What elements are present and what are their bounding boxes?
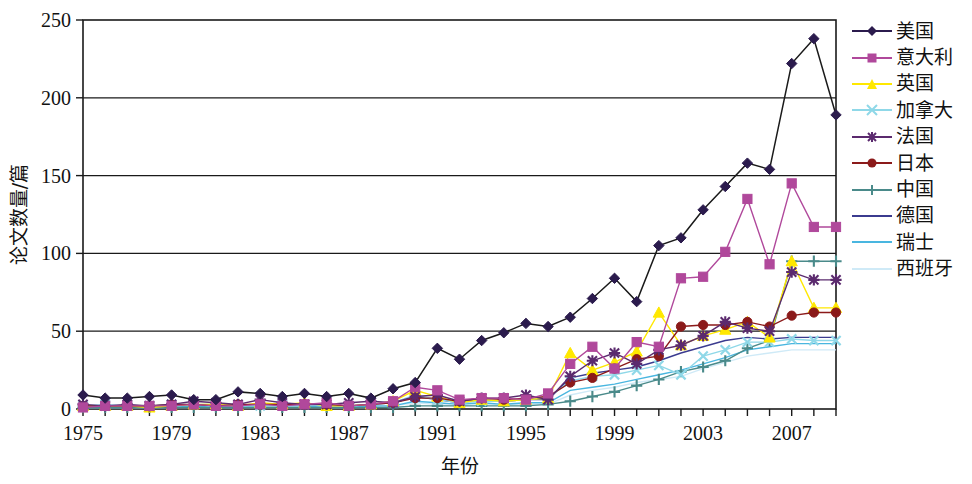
data-point-marker [830,274,841,285]
data-point-marker [388,397,397,406]
legend-item-10[interactable]: 西班牙 [852,256,972,282]
legend-item-9[interactable]: 瑞士 [852,229,972,255]
legend-swatch [852,180,892,200]
x-axis-tick-label: 2007 [772,422,812,444]
data-point-marker [566,359,575,368]
data-point-marker [831,308,840,317]
data-point-marker [743,194,752,203]
data-point-marker [699,272,708,281]
legend-swatch [852,232,892,252]
data-point-marker [587,355,598,366]
legend-label: 法国 [896,127,934,146]
data-point-marker [233,401,242,410]
data-point-marker [610,364,619,373]
legend-swatch [852,74,892,94]
data-point-marker [675,340,686,351]
y-axis-tick-label: 150 [41,165,71,187]
legend-marker-circle-icon [866,157,878,169]
legend-item-3[interactable]: 英国 [852,71,972,97]
data-point-marker [588,373,597,382]
legend-line [852,215,892,217]
legend-label: 瑞士 [896,233,934,252]
legend-item-8[interactable]: 德国 [852,203,972,229]
legend-label: 美国 [896,22,934,41]
data-point-marker [565,371,576,382]
legend-marker-plus-icon [866,184,878,196]
data-point-marker [455,395,464,404]
data-point-marker [786,266,797,277]
chart-figure: 0501001502002501975197919831987199119951… [0,0,972,484]
legend-item-2[interactable]: 意大利 [852,44,972,70]
y-axis-tick-label: 100 [41,242,71,264]
data-point-marker [344,401,353,410]
data-point-marker [410,391,421,402]
legend-swatch [852,48,892,68]
y-axis-tick-label: 0 [61,398,71,420]
data-point-marker [609,347,620,358]
legend-marker-asterisk-icon [866,131,878,143]
x-axis-title: 年份 [441,455,479,477]
x-axis-tick-label: 1995 [506,422,546,444]
data-point-marker [78,403,87,412]
data-point-marker [809,308,818,317]
data-point-marker [433,386,442,395]
y-axis-tick-label: 250 [41,9,71,31]
legend-label: 德国 [896,206,934,225]
data-point-marker [676,274,685,283]
legend-item-5[interactable]: 法国 [852,124,972,150]
legend-item-6[interactable]: 日本 [852,150,972,176]
x-axis-tick-label: 1999 [595,422,635,444]
legend-marker-triangle-icon [866,78,878,90]
x-axis-tick-label: 1983 [240,422,280,444]
y-axis-tick-label: 50 [51,320,71,342]
data-point-marker [631,358,642,369]
data-point-marker [765,260,774,269]
legend-label: 加拿大 [896,101,953,120]
x-axis-tick-label: 1979 [152,422,192,444]
data-point-marker [543,389,552,398]
data-point-marker [787,311,796,320]
data-point-marker [699,320,708,329]
legend-marker-diamond-icon [866,25,878,37]
data-point-marker [632,337,641,346]
legend-label: 英国 [896,74,934,93]
y-axis-title: 论文数量/篇 [8,164,30,265]
data-point-marker [808,274,819,285]
legend-item-4[interactable]: 加拿大 [852,97,972,123]
data-point-marker [720,316,731,327]
data-point-marker [588,342,597,351]
y-axis-tick-label: 200 [41,87,71,109]
data-point-marker [676,322,685,331]
data-point-marker [167,401,176,410]
legend-label: 西班牙 [896,259,953,278]
data-point-marker [721,247,730,256]
data-point-marker [300,400,309,409]
data-point-marker [278,401,287,410]
data-point-marker [698,330,709,341]
chart-canvas: 0501001502002501975197919831987199119951… [0,0,972,484]
legend-line [852,268,892,270]
data-point-marker [477,394,486,403]
legend-swatch [852,21,892,41]
data-point-marker [499,394,508,403]
legend-label: 中国 [896,180,934,199]
x-axis-tick-label: 1991 [417,422,457,444]
data-point-marker [256,400,265,409]
data-point-marker [742,322,753,333]
legend-item-7[interactable]: 中国 [852,176,972,202]
legend-marker-cross-icon [866,104,878,116]
data-point-marker [145,401,154,410]
legend-swatch [852,206,892,226]
data-point-marker [787,179,796,188]
legend-swatch [852,153,892,173]
x-axis-tick-label: 2003 [683,422,723,444]
data-point-marker [809,222,818,231]
legend-swatch [852,127,892,147]
data-point-marker [764,326,775,337]
data-point-marker [654,342,663,351]
legend-swatch [852,259,892,279]
data-point-marker [521,395,530,404]
legend-item-1[interactable]: 美国 [852,18,972,44]
legend-line [852,241,892,243]
legend-marker-square-icon [866,52,878,64]
